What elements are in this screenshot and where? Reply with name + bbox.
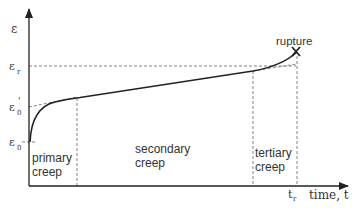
rupture-label: rupture	[276, 35, 312, 47]
svg-text:r: r	[293, 195, 297, 203]
tick-t-r: t r	[288, 188, 297, 203]
svg-text:': '	[18, 96, 20, 106]
svg-text:ε: ε	[9, 60, 15, 73]
creep-curve	[30, 52, 297, 142]
svg-text:ε: ε	[9, 136, 15, 149]
tick-epsilon-r: ε r	[9, 60, 21, 76]
svg-text:0: 0	[17, 109, 21, 117]
y-axis-label: ε	[11, 22, 17, 36]
svg-text:ε: ε	[9, 101, 15, 114]
secondary-label-2: creep	[135, 156, 165, 170]
secondary-label-1: secondary	[135, 142, 190, 156]
svg-text:r: r	[17, 68, 21, 76]
creep-curve-diagram: rupture ε ε r ε 0 ' ε 0 primary creep se…	[0, 0, 359, 212]
x-axis-label: time, t	[309, 188, 349, 202]
tertiary-label-2: creep	[255, 160, 285, 174]
tertiary-label-1: tertiary	[255, 146, 292, 160]
primary-label-1: primary	[32, 151, 72, 165]
svg-text:0: 0	[17, 144, 21, 152]
primary-label-2: creep	[32, 165, 62, 179]
tick-epsilon-0-prime: ε 0 '	[9, 96, 21, 117]
tick-epsilon-0: ε 0	[9, 136, 21, 152]
rupture-marker-icon	[292, 47, 300, 56]
